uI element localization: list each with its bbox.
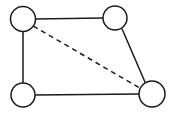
diagram-canvas xyxy=(0,0,175,116)
edge-top-right-to-bottom-right xyxy=(122,29,146,83)
edge-layer xyxy=(23,18,146,95)
node-bottom-left xyxy=(11,83,35,107)
graph-diagram xyxy=(0,0,175,116)
node-bottom-right xyxy=(139,81,165,107)
node-top-right xyxy=(103,6,127,30)
edge-bottom-left-to-bottom-right xyxy=(35,94,139,95)
node-layer xyxy=(11,6,166,107)
edge-top-left-to-top-right xyxy=(36,18,104,19)
node-top-left xyxy=(11,7,36,32)
